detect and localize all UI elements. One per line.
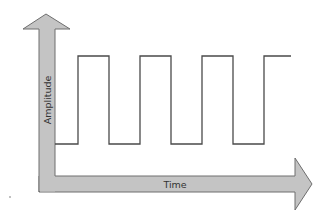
amplitude-axis-label: Amplitude [42,76,53,125]
square-waveform [55,56,291,144]
square-wave-diagram: Amplitude Time [0,0,326,220]
time-axis-label: Time [162,179,186,190]
stray-dot [9,196,10,197]
